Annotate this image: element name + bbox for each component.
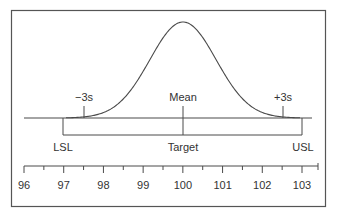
axis-tick-label: 101 [213,179,231,191]
diagram-border [12,11,326,207]
axis-tick-label: 100 [174,179,192,191]
process-capability-diagram: −3s Mean +3s LSL Target USL 96 97 98 99 … [0,0,337,215]
minus3s-label: −3s [75,91,94,103]
lsl-label: LSL [53,141,73,153]
axis-tick-label: 98 [97,179,109,191]
mean-label: Mean [169,91,197,103]
axis-tick-label: 96 [18,179,30,191]
usl-label: USL [292,141,313,153]
axis-tick-label: 99 [137,179,149,191]
axis-tick-label: 97 [58,179,70,191]
axis-tick-label: 103 [293,179,311,191]
plus3s-label: +3s [274,91,293,103]
target-label: Target [168,141,199,153]
axis-tick-label: 102 [253,179,271,191]
